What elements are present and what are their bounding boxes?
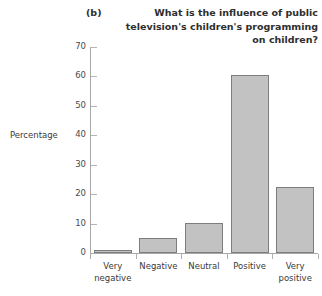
x-axis-tick-label: Positive (227, 261, 273, 273)
panel-letter: (b) (86, 6, 111, 19)
y-axis-tick-label: 20 (64, 189, 86, 198)
x-axis-tick-label-line: positive (272, 273, 318, 285)
y-axis-label: Percentage (10, 130, 80, 140)
x-axis-tick (318, 254, 319, 259)
chart-title: What is the influence of public televisi… (111, 6, 318, 47)
x-axis-tick-label-line: Positive (227, 261, 273, 273)
x-axis-tick (181, 254, 182, 259)
x-axis-line (90, 253, 318, 254)
y-axis-tick-label: 30 (64, 160, 86, 169)
y-axis-tick-label-slot: 50 (60, 101, 86, 110)
y-axis-tick-label-slot: 10 (60, 219, 86, 228)
x-axis-tick (227, 254, 228, 259)
y-axis-tick (91, 76, 97, 77)
x-axis-tick (90, 254, 91, 259)
x-axis-tick-label-line: Very (272, 261, 318, 273)
y-axis-tick (91, 194, 97, 195)
y-axis-tick-label: 60 (64, 71, 86, 80)
x-axis-tick-label: Neutral (181, 261, 227, 273)
x-axis-tick-label-line: negative (90, 273, 136, 285)
bar (185, 223, 223, 253)
y-axis-tick (91, 224, 97, 225)
y-axis-tick-label: 70 (64, 42, 86, 51)
y-axis-tick-label-slot: 70 (60, 42, 86, 51)
y-axis-tick-label-slot: 20 (60, 189, 86, 198)
y-axis-tick-label: 50 (64, 101, 86, 110)
x-axis-tick-label: Verypositive (272, 261, 318, 284)
x-axis-tick (136, 254, 137, 259)
chart-canvas: (b) What is the influence of public tele… (0, 0, 322, 296)
x-axis-tick-label: Verynegative (90, 261, 136, 284)
y-axis-tick (91, 106, 97, 107)
y-axis-tick-label: 10 (64, 219, 86, 228)
bar (94, 250, 132, 253)
bar (139, 238, 177, 253)
x-axis-tick-label: Negative (136, 261, 182, 273)
bar (276, 187, 314, 253)
x-axis-tick (272, 254, 273, 259)
chart-title-block: (b) What is the influence of public tele… (86, 6, 318, 47)
bar (231, 75, 269, 253)
y-axis-tick (91, 47, 97, 48)
y-axis-tick (91, 135, 97, 136)
x-axis-tick-label-line: Negative (136, 261, 182, 273)
y-axis-tick-label-slot: 0 (60, 248, 86, 257)
y-axis-tick-label-slot: 30 (60, 160, 86, 169)
y-axis-tick (91, 165, 97, 166)
y-axis-tick-label-slot: 60 (60, 71, 86, 80)
x-axis-tick-label-line: Very (90, 261, 136, 273)
y-axis-tick-label: 0 (64, 248, 86, 257)
x-axis-tick-label-line: Neutral (181, 261, 227, 273)
